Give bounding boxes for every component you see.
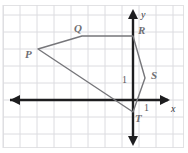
geometry-figure: P Q R S T 1 1 y x [0, 0, 188, 153]
vertex-label-p: P [25, 49, 32, 60]
vertex-label-s: S [151, 70, 157, 81]
y-tick-label-1: 1 [122, 75, 127, 85]
y-axis [128, 9, 138, 146]
x-axis-label: x [171, 104, 175, 114]
y-axis-label: y [141, 10, 145, 20]
vertex-label-r: R [138, 25, 145, 36]
vertex-label-q: Q [74, 23, 82, 34]
x-tick-label-1: 1 [144, 103, 149, 113]
vertex-label-t: T [135, 113, 142, 124]
coordinate-plane-canvas [0, 0, 188, 153]
